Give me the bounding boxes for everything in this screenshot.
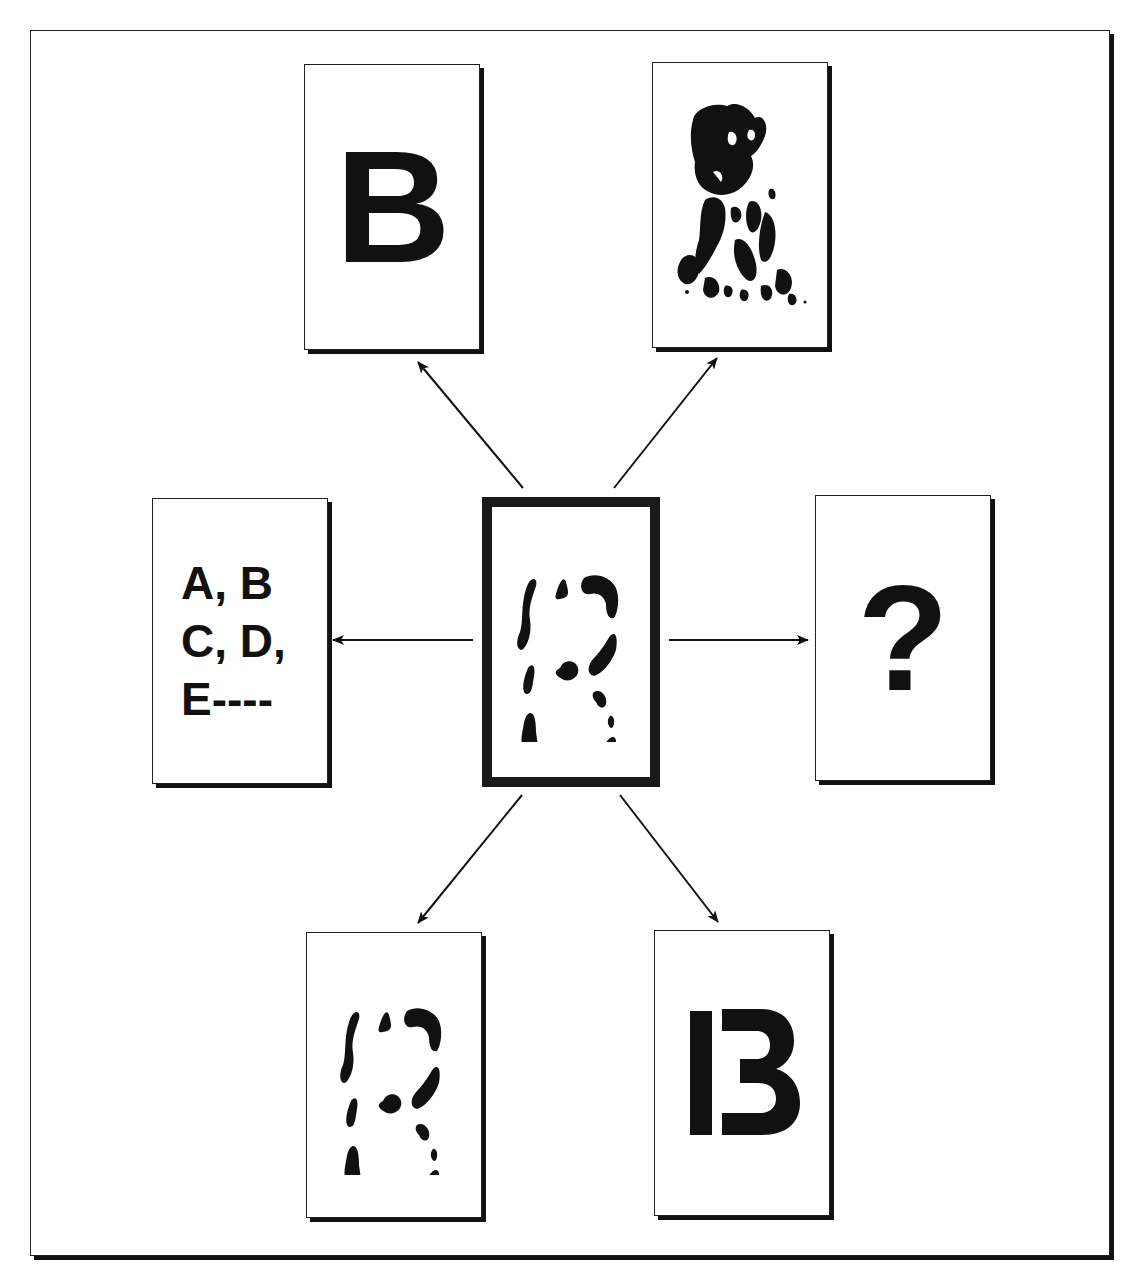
letter-b: B [335, 127, 449, 287]
alphabet-text: A, B C, D, E---- [165, 554, 315, 728]
fragmented-b-copy-icon [329, 975, 459, 1175]
split-b-icon [682, 1003, 802, 1143]
dalmatian-image-icon [665, 90, 815, 320]
card-fragmented-b-copy [306, 932, 482, 1218]
fragmented-b-icon [506, 542, 636, 742]
question-mark: ? [857, 563, 949, 713]
card-alphabet-context: A, B C, D, E---- [152, 498, 328, 784]
alphabet-line-2: C, D, [181, 612, 315, 670]
card-letter-b: B [304, 64, 480, 350]
card-question-mark: ? [815, 495, 991, 781]
card-dog-image [652, 62, 828, 348]
alphabet-line-3: E---- [181, 670, 315, 728]
card-split-b [654, 930, 830, 1216]
card-center-fragmented-b [482, 497, 660, 787]
alphabet-line-1: A, B [181, 554, 315, 612]
